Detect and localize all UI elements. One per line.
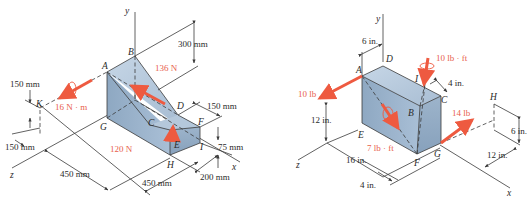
point-I: I: [414, 74, 419, 84]
force-10lb-label: 10 lb: [298, 89, 317, 99]
dim-300mm: 300 mm: [178, 39, 208, 49]
force-14lb-label: 14 lb: [452, 108, 471, 118]
diagram-canvas: y z x B A C D E F G H I K 136 N 120 N 16…: [0, 0, 530, 207]
point-G: G: [100, 122, 107, 132]
point-G: G: [434, 149, 441, 159]
point-E: E: [173, 140, 180, 150]
dim-150mm-K-bottom: 150 mm: [5, 142, 35, 152]
force-120N-arrow: [172, 127, 173, 142]
dim-6in-AD: 6 in.: [362, 36, 378, 46]
z-axis-label: z: [295, 160, 300, 170]
dim-200mm: 200 mm: [200, 172, 230, 182]
left-figure: y z x B A C D E F G H I K 136 N 120 N 16…: [5, 6, 243, 195]
dim-4in-IC: 4 in.: [448, 78, 464, 88]
dim-150mm-DF: 150 mm: [207, 101, 237, 111]
dim-12in-height: 12 in.: [311, 115, 332, 125]
dim-450mm-x: 450 mm: [142, 178, 172, 188]
dim-4in-bottom: 4 in.: [360, 180, 376, 190]
point-A: A: [355, 65, 362, 75]
point-K: K: [35, 99, 43, 109]
dim-450mm-z: 450 mm: [60, 169, 90, 179]
dim-16in: 16 in.: [346, 155, 367, 165]
z-axis-label: z: [9, 170, 14, 180]
point-A: A: [101, 61, 108, 71]
z-axis: [298, 143, 327, 160]
y-axis-label: y: [124, 6, 130, 16]
point-H: H: [166, 160, 175, 170]
right-figure: y z x A D I C B E F G H 10 lb 10 lb · ft…: [295, 14, 527, 198]
force-136N-label: 136 N: [155, 63, 178, 73]
dim-150mm-K-top: 150 mm: [10, 79, 40, 89]
dim-75mm: 75 mm: [218, 142, 243, 152]
point-I: I: [199, 142, 204, 152]
couple-7lbft-label: 7 lb · ft: [367, 143, 394, 153]
point-F: F: [197, 117, 204, 127]
point-D: D: [385, 54, 393, 64]
point-B: B: [128, 47, 134, 57]
point-C: C: [441, 95, 448, 105]
point-H: H: [489, 92, 498, 102]
x-axis-label: x: [506, 188, 512, 198]
point-D: D: [176, 101, 184, 111]
y-axis-label: y: [375, 14, 381, 24]
point-F: F: [413, 158, 420, 168]
force-10lb-arrow: [320, 76, 362, 98]
point-C: C: [148, 118, 155, 128]
couple-10lbft-label: 10 lb · ft: [436, 53, 468, 63]
dim-6in-H: 6 in.: [511, 126, 527, 136]
dim-12in-H: 12 in.: [487, 150, 508, 160]
point-E: E: [357, 130, 364, 140]
point-B: B: [408, 108, 414, 118]
x-axis-label: x: [231, 162, 237, 172]
force-120N-label: 120 N: [110, 144, 133, 154]
couple-16Nm-label: 16 N · m: [55, 102, 87, 112]
couple-10lbft-arrow: [424, 58, 428, 84]
